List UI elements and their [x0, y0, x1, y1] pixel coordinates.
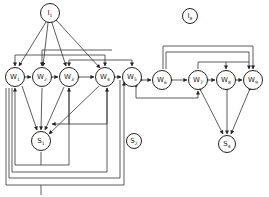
network-diagram: I1 I8 W1 W2 W3 W4 W5 W6 W7 W8 W9 S1 S2 S…: [0, 0, 269, 197]
node-w5: W5: [122, 67, 142, 87]
node-w3: W3: [59, 67, 79, 87]
node-i1: I1: [40, 3, 60, 23]
node-s4: S4: [218, 135, 236, 153]
node-w7: W7: [188, 70, 208, 90]
node-i8: I8: [182, 8, 198, 24]
node-w1: W1: [5, 67, 25, 87]
node-w6: W6: [152, 70, 172, 90]
edges-layer: [0, 0, 269, 197]
node-w2: W2: [32, 67, 52, 87]
node-w9: W9: [243, 70, 263, 90]
node-s1: S1: [31, 131, 51, 151]
node-w4: W4: [95, 67, 115, 87]
node-s2: S2: [126, 133, 142, 149]
node-w8: W8: [216, 70, 236, 90]
